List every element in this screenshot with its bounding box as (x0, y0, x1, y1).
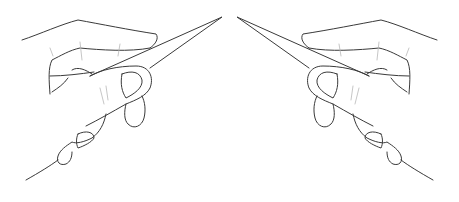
left-hand-with-tool (22, 17, 222, 180)
hands-illustration (0, 0, 459, 202)
illustration-canvas (0, 0, 459, 202)
right-hand-with-tool (237, 17, 437, 180)
